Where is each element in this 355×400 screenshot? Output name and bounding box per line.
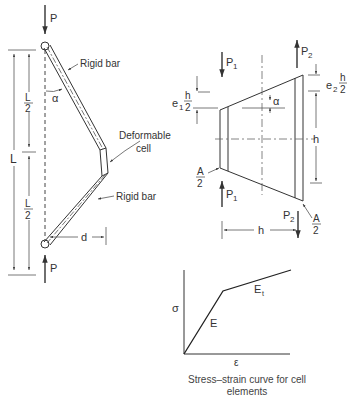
bilinear-curve [184, 270, 291, 354]
svg-text:1: 1 [179, 103, 184, 112]
stress-axis-label: σ [172, 302, 179, 314]
svg-text:2: 2 [333, 85, 338, 94]
svg-text:h: h [185, 90, 191, 101]
angle-label: α [52, 92, 59, 104]
diagram-canvas: P P L [0, 0, 355, 400]
svg-text:A: A [197, 166, 204, 177]
half-length-top-label: L 2 [24, 92, 33, 114]
svg-text:e: e [172, 97, 178, 109]
deformable-cell [100, 148, 108, 176]
svg-text:2: 2 [25, 103, 31, 114]
cell-outline [220, 75, 303, 201]
svg-text:2: 2 [340, 84, 346, 95]
lower-bar-label: Rigid bar [116, 191, 157, 202]
svg-text:t: t [262, 290, 264, 297]
width-label: h [258, 224, 264, 236]
svg-text:L: L [25, 92, 31, 103]
svg-text:h: h [340, 72, 346, 83]
e1-label: e 1 h 2 [172, 90, 192, 113]
caption-line1: Stress–strain curve for cell [188, 374, 306, 385]
strain-axis-label: ε [234, 357, 239, 368]
p2-bottom-label: P 2 [283, 209, 295, 224]
lower-rigid-bar [44, 173, 108, 245]
area-left-label: A 2 [196, 166, 205, 189]
svg-text:L: L [25, 198, 31, 209]
bottom-load-label: P [50, 262, 57, 274]
cell-label-line1: Deformable [119, 130, 171, 141]
p1-top-label: P 1 [226, 56, 238, 71]
stress-strain-chart: σ ε E E t Stress–strain curve for cell e… [172, 270, 306, 397]
area-right-label: A 2 [312, 213, 321, 236]
cell-element: P 1 P 2 e 1 h 2 e 2 h 2 [172, 40, 347, 239]
svg-text:2: 2 [313, 225, 319, 236]
buckling-model: P P L [8, 5, 171, 283]
cell-angle-label: α [273, 95, 280, 107]
tangent-modulus-label: E t [254, 283, 264, 297]
p2-top-label: P 2 [301, 45, 313, 60]
svg-text:2: 2 [197, 178, 203, 189]
elastic-modulus-label: E [210, 317, 217, 329]
upper-bar-label: Rigid bar [80, 58, 121, 69]
svg-text:2: 2 [25, 210, 31, 221]
svg-text:1: 1 [233, 62, 238, 71]
svg-text:2: 2 [185, 102, 191, 113]
svg-text:A: A [313, 213, 320, 224]
offset-label: d [81, 231, 87, 243]
height-label: h [313, 133, 319, 145]
svg-text:e: e [326, 79, 332, 91]
cell-label-line2: cell [136, 143, 151, 154]
svg-text:1: 1 [233, 194, 238, 203]
length-label: L [10, 152, 17, 166]
svg-text:2: 2 [308, 51, 313, 60]
svg-text:2: 2 [290, 215, 295, 224]
caption-line2: elements [227, 386, 268, 397]
p1-bottom-label: P 1 [226, 188, 238, 203]
half-length-bottom-label: L 2 [24, 198, 33, 221]
top-load-label: P [50, 12, 57, 24]
e2-label: e 2 h 2 [326, 72, 347, 95]
svg-text:E: E [254, 283, 261, 295]
